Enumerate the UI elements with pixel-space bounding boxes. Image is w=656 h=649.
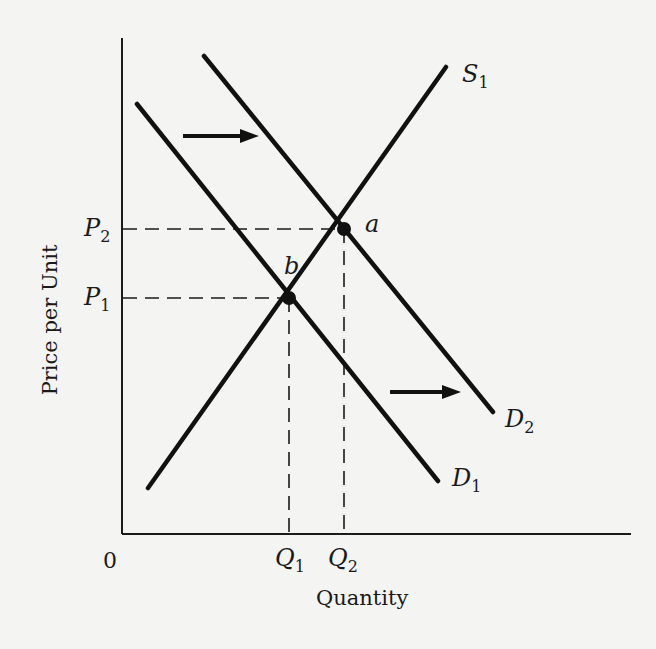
p1-label: P1: [83, 283, 110, 315]
shift-arrow-lower: [390, 385, 461, 399]
y-axis-title: Price per Unit: [38, 244, 62, 395]
point-a-label: a: [365, 210, 379, 238]
s1-label: S1: [462, 60, 489, 92]
equilibrium-point-b: [282, 291, 296, 305]
origin-label: 0: [103, 548, 117, 573]
d1-label: D1: [451, 464, 481, 496]
supply-demand-chart: S1 D2 D1 a b P2 P1 0 Q1 Q2 Quantity Pric…: [0, 0, 656, 649]
point-b-label: b: [284, 252, 299, 280]
guide-lines: [123, 229, 344, 533]
q1-label: Q1: [275, 544, 305, 576]
q2-label: Q2: [328, 544, 358, 576]
d2-label: D2: [504, 405, 534, 437]
equilibrium-point-a: [337, 222, 351, 236]
shift-arrow-upper: [183, 129, 259, 143]
x-axis-title: Quantity: [316, 586, 408, 610]
p2-label: P2: [83, 214, 110, 246]
